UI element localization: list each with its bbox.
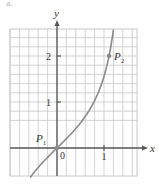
point-p1-marker <box>55 146 59 150</box>
x-axis-label: x <box>149 142 155 154</box>
x-tick-label: 1 <box>102 151 107 162</box>
y-tick-label: 2 <box>46 51 51 62</box>
origin-label: 0 <box>60 150 65 161</box>
tangent-graph: a. x y 0 112 P1P2 <box>0 0 159 187</box>
y-axis-label: y <box>53 7 59 19</box>
panel-label: a. <box>6 0 13 8</box>
point-p2-marker <box>107 54 111 58</box>
ticks: 112 <box>46 51 107 162</box>
axes: x y 0 <box>10 7 155 176</box>
y-axis-arrow-icon <box>55 20 60 26</box>
point-p1-label: P1 <box>35 132 47 147</box>
x-axis-arrow-icon <box>142 146 148 151</box>
y-tick-label: 1 <box>46 97 51 108</box>
